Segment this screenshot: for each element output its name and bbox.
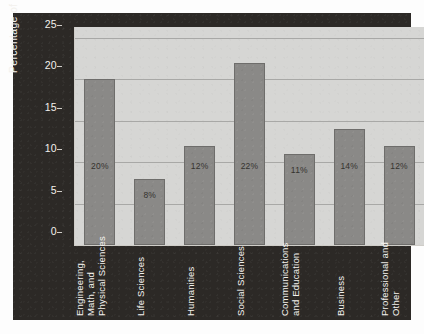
chart-figure: Percentage of Graduates 0510152025 20%8%… (0, 0, 424, 334)
y-axis-tick-mark (57, 191, 62, 192)
y-axis-tick-label: 15 (45, 101, 57, 113)
y-axis-tick-label: 20 (45, 59, 57, 71)
x-axis-category-label: Business (335, 276, 346, 316)
y-axis-tick-label: 25 (45, 18, 57, 30)
y-axis-tick-mark (57, 149, 62, 150)
x-axis-spine (74, 245, 424, 246)
bar[interactable] (134, 179, 165, 245)
y-axis-tick-mark (57, 232, 62, 233)
x-axis-category-label: Social Sciences (235, 246, 246, 316)
y-axis-tick-label: 10 (45, 142, 57, 154)
bar-value-label: 20% (84, 161, 116, 171)
y-axis-tick-label: 0 (51, 225, 57, 237)
x-axis-category-label: Humanities (185, 266, 196, 316)
y-axis-tick-mark (57, 108, 62, 109)
bar-value-label: 22% (234, 161, 266, 171)
y-axis-tick-label: 5 (51, 184, 57, 196)
x-axis-category-label: Communications and Education (279, 242, 301, 316)
bar[interactable] (234, 63, 265, 245)
y-axis-title: Percentage of Graduates (7, 0, 19, 73)
chart-panel: Percentage of Graduates 0510152025 20%8%… (13, 13, 411, 320)
x-axis-category-label: Life Sciences (135, 257, 146, 316)
x-axis-category-label: Engineering, Math, and Physical Sciences (74, 236, 107, 316)
plot-area: 20%8%12%22%11%14%12% (75, 27, 424, 245)
bar-value-label: 11% (283, 165, 315, 175)
bar-value-label: 12% (184, 161, 216, 171)
x-axis-category-label: Professional and Other (379, 242, 401, 316)
y-axis-tick-mark (57, 66, 62, 67)
gridline (75, 38, 424, 39)
bar-value-label: 8% (134, 190, 166, 200)
bar[interactable] (334, 129, 365, 245)
bar-value-label: 14% (333, 161, 365, 171)
bar-value-label: 12% (383, 161, 415, 171)
y-axis-tick-mark (57, 25, 62, 26)
